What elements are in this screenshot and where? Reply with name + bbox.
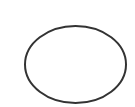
ellipse-shape bbox=[25, 26, 126, 103]
diagram-canvas bbox=[0, 0, 135, 107]
